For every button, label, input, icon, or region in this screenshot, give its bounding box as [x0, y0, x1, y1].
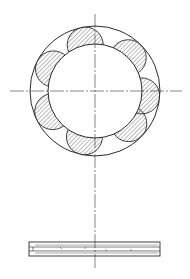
- side-view: [29, 242, 160, 256]
- technical-drawing: [0, 0, 190, 279]
